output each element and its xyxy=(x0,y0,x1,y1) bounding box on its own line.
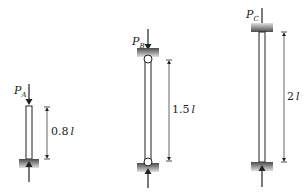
column-a: PA 0.8l xyxy=(13,84,75,182)
length-label-a: 0.8l xyxy=(51,125,75,138)
column-body-b xyxy=(145,60,151,160)
load-arrow-b xyxy=(145,29,152,50)
load-label-c: PC xyxy=(245,8,259,23)
column-b: PB 1.5l xyxy=(131,29,196,188)
column-body-c xyxy=(259,32,265,162)
fixed-support-top-c xyxy=(251,23,273,32)
length-label-c: 2l xyxy=(287,90,300,103)
dimension-a xyxy=(44,107,50,159)
load-label-b: PB xyxy=(131,35,145,50)
length-label-b: 1.5l xyxy=(172,103,196,116)
column-body-a xyxy=(26,106,32,159)
pin-joint-bottom-b xyxy=(144,158,152,166)
load-label-a: PA xyxy=(13,84,26,99)
column-buckling-diagram: PA 0.8l PB xyxy=(0,0,308,196)
load-arrow-a xyxy=(26,84,33,105)
pin-joint-top-b xyxy=(144,55,152,63)
column-c: PC 2l xyxy=(245,8,300,187)
